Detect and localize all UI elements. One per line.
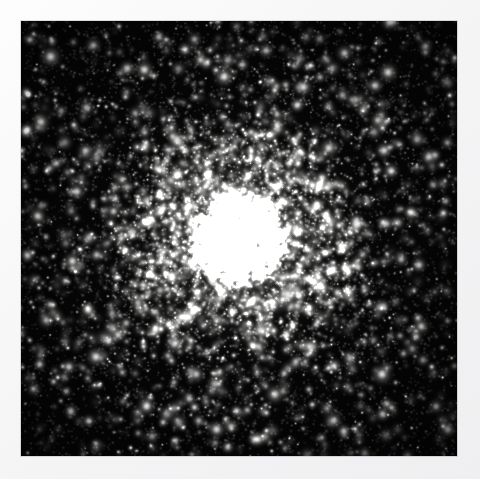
image-page — [0, 0, 480, 479]
bright-star-overlay-canvas — [21, 21, 457, 456]
globular-cluster-plate — [21, 21, 457, 456]
